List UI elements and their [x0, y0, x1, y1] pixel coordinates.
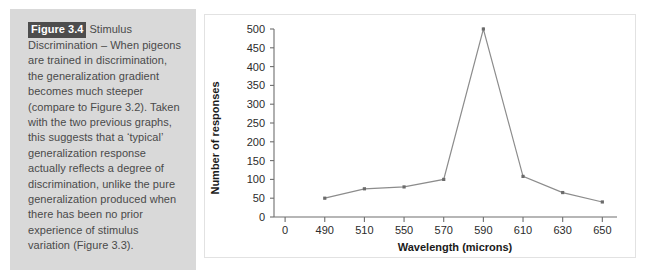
figure-number-badge: Figure 3.4 [28, 22, 86, 38]
series-marker [442, 178, 445, 181]
series-marker [402, 185, 405, 188]
series-marker [323, 197, 326, 200]
y-tick-label: 350 [247, 79, 265, 91]
x-tick-label: 550 [395, 224, 413, 236]
y-tick-label: 50 [253, 192, 265, 204]
y-tick-label: 0 [259, 211, 265, 223]
y-tick-label: 250 [247, 117, 265, 129]
figure-container: Figure 3.4Stimulus Discrimination – When… [0, 0, 649, 279]
figure-caption-panel: Figure 3.4Stimulus Discrimination – When… [10, 9, 196, 270]
y-tick-label: 500 [247, 23, 265, 35]
series-marker [363, 187, 366, 190]
y-axis-tick-labels: 050100150200250300350400450500 [247, 23, 265, 223]
x-tick-label: 630 [553, 224, 571, 236]
y-tick-label: 150 [247, 155, 265, 167]
figure-caption-body: Stimulus Discrimination – When pigeons a… [28, 23, 181, 251]
x-tick-label: 490 [316, 224, 334, 236]
series-markers-responses [323, 27, 604, 203]
x-tick-label: 610 [514, 224, 532, 236]
y-tick-label: 300 [247, 98, 265, 110]
x-tick-label: 650 [593, 224, 611, 236]
x-tick-label: 510 [355, 224, 373, 236]
series-line-responses [325, 29, 603, 202]
y-tick-label: 400 [247, 61, 265, 73]
series-marker [561, 191, 564, 194]
y-tick-label: 100 [247, 173, 265, 185]
figure-caption-text: Figure 3.4Stimulus Discrimination – When… [28, 22, 182, 254]
y-tick-label: 450 [247, 42, 265, 54]
x-axis-tick-labels: 0490510550570590610630650 [282, 224, 611, 236]
series-marker [601, 200, 604, 203]
x-axis-tick-marks [285, 217, 602, 222]
series-marker [482, 27, 485, 30]
chart-panel: 050100150200250300350400450500 049051055… [204, 14, 636, 258]
x-tick-label: 0 [282, 224, 288, 236]
y-axis-tick-marks [270, 29, 274, 217]
x-tick-label: 570 [435, 224, 453, 236]
series-marker [521, 175, 524, 178]
x-axis-title: Wavelength (microns) [398, 241, 513, 253]
y-axis-title: Number of responses [209, 81, 221, 194]
line-chart: 050100150200250300350400450500 049051055… [205, 15, 635, 257]
y-tick-label: 200 [247, 136, 265, 148]
x-tick-label: 590 [474, 224, 492, 236]
